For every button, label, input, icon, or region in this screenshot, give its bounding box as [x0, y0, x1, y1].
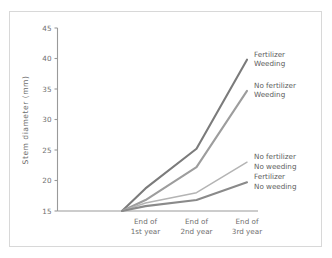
figure-container: 15202530354045 End of1st yearEnd of2nd y…: [0, 0, 332, 258]
x-category-label: End of: [185, 217, 208, 226]
series-annotation-label: Fertilizer: [254, 50, 285, 59]
y-tick-label: 20: [42, 176, 52, 185]
series-annotation-label: No weeding: [254, 162, 296, 171]
x-category-label: 1st year: [131, 227, 161, 236]
x-category-label: 3rd year: [232, 227, 262, 236]
series-annotation-label: No fertilizer: [254, 152, 296, 161]
x-category-label: End of: [134, 217, 157, 226]
y-tick-label: 35: [42, 85, 51, 94]
y-tick-label: 40: [42, 54, 52, 63]
y-tick-label: 15: [42, 207, 51, 216]
y-axis-title: Stem diameter (mm): [21, 76, 30, 165]
series-annotations: FertilizerWeedingNo fertilizerWeedingNo …: [254, 50, 296, 191]
series-annotation-label: No weeding: [254, 182, 296, 191]
data-series-group: [122, 60, 247, 211]
line-chart: 15202530354045 End of1st yearEnd of2nd y…: [0, 0, 332, 258]
x-category-labels: End of1st yearEnd of2nd yearEnd of3rd ye…: [131, 217, 262, 236]
y-axis: [55, 28, 58, 211]
y-tick-label: 45: [42, 24, 51, 33]
series-annotation-label: No fertilizer: [254, 81, 296, 90]
series-annotation-label: Fertilizer: [254, 172, 285, 181]
y-tick-label: 25: [42, 146, 51, 155]
y-tick-labels: 15202530354045: [42, 24, 52, 216]
x-category-label: End of: [236, 217, 259, 226]
series-line: [122, 182, 247, 211]
series-annotation-label: Weeding: [254, 59, 285, 68]
y-tick-label: 30: [42, 115, 52, 124]
x-category-label: 2nd year: [180, 227, 212, 236]
series-annotation-label: Weeding: [254, 90, 285, 99]
series-line: [122, 162, 247, 211]
